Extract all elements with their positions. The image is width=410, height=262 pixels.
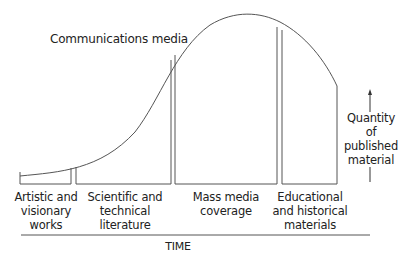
stage-label-educational: Educational and historical materials: [270, 190, 350, 232]
arrow-head-icon: [368, 89, 372, 95]
stage-label-artistic: Artistic and visionary works: [8, 190, 84, 232]
y-axis-label: Quantity of published material: [340, 111, 402, 167]
curve-label: Communications media: [50, 32, 188, 46]
stage-box-mass-media: [175, 27, 277, 184]
stage-label-scientific: Scientific and technical literature: [82, 190, 168, 232]
stage-box-educational: [282, 30, 337, 184]
x-axis-label: TIME: [158, 240, 198, 254]
stage-box-scientific: [76, 60, 171, 184]
stage-label-mass-media: Mass media coverage: [178, 190, 274, 218]
